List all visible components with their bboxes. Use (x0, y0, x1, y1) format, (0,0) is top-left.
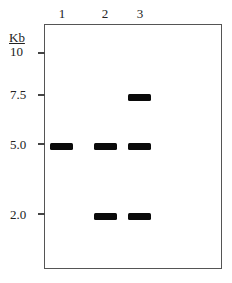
lane-label-1: 1 (52, 6, 72, 22)
marker-tick-2.0 (38, 213, 45, 215)
marker-tick-10 (38, 52, 45, 54)
lane-label-2: 2 (95, 6, 115, 22)
band-lane2-5.0kb (94, 143, 117, 150)
lane-label-3: 3 (130, 6, 150, 22)
band-lane3-7.5kb (128, 94, 151, 101)
marker-tick-5.0 (38, 143, 45, 145)
band-lane1-5.0kb (50, 143, 73, 150)
marker-label-2.0: 2.0 (10, 207, 34, 223)
marker-label-10: 10 (10, 44, 34, 60)
band-lane2-2.0kb (94, 213, 117, 220)
band-lane3-5.0kb (128, 143, 151, 150)
marker-label-7.5: 7.5 (10, 87, 34, 103)
marker-label-5.0: 5.0 (10, 137, 34, 153)
band-lane3-2.0kb (128, 213, 151, 220)
marker-tick-7.5 (38, 94, 45, 96)
